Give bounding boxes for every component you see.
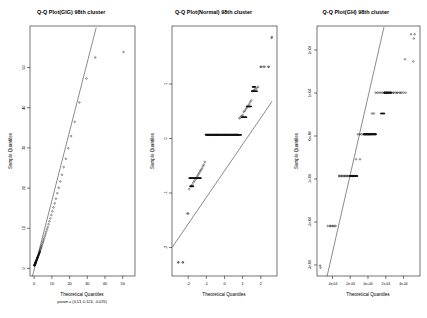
data-point xyxy=(44,235,46,237)
x-axis-title-normal: Theoretical Quantiles xyxy=(203,292,247,297)
data-point xyxy=(371,113,373,115)
data-point xyxy=(182,262,184,264)
data-point xyxy=(376,92,378,94)
x-tick-label: 1 xyxy=(242,281,244,286)
data-point xyxy=(194,180,196,182)
x-tick-label: 2e-04 xyxy=(381,282,390,286)
x-tick-label: 50 xyxy=(121,281,125,286)
data-point xyxy=(42,242,44,244)
data-point xyxy=(49,218,51,220)
data-point xyxy=(375,134,377,136)
y-axis-title-normal: Sample Quantiles xyxy=(150,132,155,169)
x-axis-gig: 0 10 20 30 40 50 xyxy=(33,276,125,286)
data-point xyxy=(405,92,407,94)
data-point xyxy=(55,198,57,200)
y-tick-label: 40 xyxy=(21,106,26,110)
data-point xyxy=(249,103,251,105)
x-tick-label: -1 xyxy=(205,281,208,286)
x-tick-label: 30 xyxy=(85,281,89,286)
data-point xyxy=(255,86,257,88)
x-axis-title-gig: Theoretical Quantiles xyxy=(60,292,104,297)
data-point xyxy=(244,110,246,112)
data-point xyxy=(60,181,62,183)
y-axis-gig: 0 10 20 30 40 50 xyxy=(21,65,30,269)
data-point xyxy=(257,90,259,92)
x-tick-label: 40 xyxy=(103,281,107,286)
data-point xyxy=(43,238,45,240)
panel-normal: Q-Q Plot(Normal) 98th cluster -2 -1 0 1 … xyxy=(142,0,284,318)
x-tick-label: 0 xyxy=(224,281,226,286)
data-point xyxy=(48,224,50,226)
data-point xyxy=(251,100,253,102)
reference-line-gh xyxy=(327,27,384,276)
y-tick-label: 2e-04 xyxy=(308,46,312,55)
x-axis-normal: -2 -1 0 1 2 xyxy=(187,276,262,286)
data-point xyxy=(123,51,125,53)
data-point xyxy=(414,34,416,36)
data-point xyxy=(43,239,45,241)
data-point xyxy=(404,59,406,61)
data-point xyxy=(58,187,60,189)
data-point xyxy=(246,117,248,119)
data-point xyxy=(203,164,205,166)
y-tick-label: 50 xyxy=(21,65,26,69)
data-point xyxy=(74,121,76,123)
data-point xyxy=(251,106,253,108)
y-tick-label: -3e-04 xyxy=(308,260,312,270)
data-point xyxy=(410,34,412,36)
data-point xyxy=(198,174,200,176)
data-point xyxy=(378,92,380,94)
data-point xyxy=(79,102,81,104)
plot-frame-gh xyxy=(317,26,420,276)
x-tick-label: 2 xyxy=(260,281,262,286)
data-point xyxy=(65,158,67,160)
data-point xyxy=(355,159,357,161)
data-point xyxy=(45,233,47,235)
y-tick-label: 1 xyxy=(163,83,168,85)
data-point xyxy=(46,229,48,231)
data-point xyxy=(202,165,204,167)
data-point xyxy=(54,203,56,205)
data-point xyxy=(199,172,201,174)
x-tick-label: 4e-04 xyxy=(399,282,408,286)
data-points-gig xyxy=(34,51,125,266)
data-point xyxy=(403,92,405,94)
x-axis-gh: -4e-04 -2e-04 0e+00 2e-04 4e-04 xyxy=(327,276,407,286)
x-tick-label: 0e+00 xyxy=(363,282,372,286)
y-tick-label: -2e-04 xyxy=(308,217,312,227)
data-point xyxy=(178,262,180,264)
data-point xyxy=(51,214,53,216)
y-axis-title-gig: Sample Quantiles xyxy=(8,132,13,169)
y-axis-title-gh: Sample Quantiles xyxy=(294,132,299,169)
y-tick-label: -1 xyxy=(163,191,168,194)
y-tick-label: 1e-04 xyxy=(308,89,312,98)
data-point xyxy=(373,113,375,115)
x-tick-label: -2 xyxy=(187,281,190,286)
data-point xyxy=(256,87,258,89)
data-point xyxy=(204,161,206,163)
y-tick-label: 0 xyxy=(21,267,26,269)
data-point xyxy=(383,113,385,115)
data-point xyxy=(245,108,247,110)
data-point xyxy=(197,175,199,177)
data-point xyxy=(360,134,362,136)
data-point xyxy=(61,174,63,176)
data-point xyxy=(53,207,55,209)
data-point xyxy=(319,267,321,269)
y-axis-normal: -2 -1 0 1 xyxy=(163,83,172,249)
qq-plot-figure: Q-Q Plot(GIG) 98th cluster 0 10 20 30 40… xyxy=(0,0,427,318)
y-tick-label: 0 xyxy=(163,137,168,139)
data-point xyxy=(319,265,321,267)
data-point xyxy=(241,134,243,136)
data-point xyxy=(380,92,382,94)
y-tick-label: 10 xyxy=(21,226,26,230)
data-point xyxy=(200,177,202,179)
x-tick-label: -2e-04 xyxy=(345,282,355,286)
x-tick-label: 20 xyxy=(67,281,71,286)
x-axis-title-gh: Theoretical Quantiles xyxy=(346,292,390,297)
y-tick-label: -2 xyxy=(163,246,168,249)
data-point xyxy=(41,244,43,246)
data-point xyxy=(242,114,244,116)
data-point xyxy=(374,92,376,94)
x-axis-subtitle-gig: param = (0.13, 0.124, -0.025) xyxy=(57,300,107,304)
